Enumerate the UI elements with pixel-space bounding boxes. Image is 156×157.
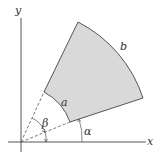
label-b: b <box>120 40 127 53</box>
annular-sector <box>44 22 143 122</box>
y-axis-label: y <box>14 4 22 17</box>
ray-beta <box>21 92 44 142</box>
x-axis-label: x <box>147 135 154 148</box>
label-alpha: α <box>84 125 92 138</box>
label-a: a <box>61 96 68 109</box>
alpha-arc <box>79 119 82 142</box>
label-beta: β <box>41 117 48 130</box>
polar-sector-diagram: x y a b α β <box>0 0 156 157</box>
